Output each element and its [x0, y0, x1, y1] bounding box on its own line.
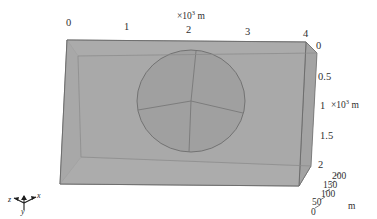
right-axis-tick-0-5: 0.5: [318, 72, 331, 83]
triad-label-x: x: [37, 192, 41, 200]
depth-axis-tick-200: 200: [332, 172, 346, 182]
depth-axis-tick-100: 100: [321, 190, 335, 200]
right-axis-unit-suffix: m: [349, 100, 359, 110]
top-axis-tick-3: 3: [245, 27, 250, 38]
triad-y-arrowhead: [21, 195, 27, 200]
right-axis-tick-2: 2: [318, 160, 323, 171]
right-axis-tick-1: 1: [320, 101, 325, 112]
depth-axis-tick-150: 150: [323, 181, 337, 191]
top-axis-tick-0: 0: [66, 18, 71, 29]
top-axis-unit-mantissa: ×10: [177, 11, 192, 21]
triad-label-z: z: [8, 196, 11, 204]
right-axis-unit-mantissa: ×10: [331, 100, 346, 110]
depth-axis-tick-0: 0: [311, 208, 316, 218]
top-axis-tick-2: 2: [186, 25, 191, 36]
top-axis-unit-label: ×103 m: [177, 12, 205, 22]
figure-canvas: 0 1 2 3 4 ×103 m 0 0.5 1 1.5 2 ×103 m 0 …: [0, 0, 377, 219]
triad-label-y: y: [21, 208, 25, 216]
triad-arrows: [14, 195, 36, 210]
top-axis-tick-4: 4: [303, 29, 308, 40]
top-axis-tick-1: 1: [124, 22, 129, 33]
top-axis-unit-suffix: m: [195, 11, 205, 21]
embedded-sphere: [137, 50, 245, 152]
right-axis-tick-1-5: 1.5: [320, 131, 333, 142]
right-axis-unit-label: ×103 m: [331, 101, 359, 111]
right-axis-tick-0: 0: [316, 41, 321, 52]
depth-axis-unit-label: m: [348, 202, 355, 212]
